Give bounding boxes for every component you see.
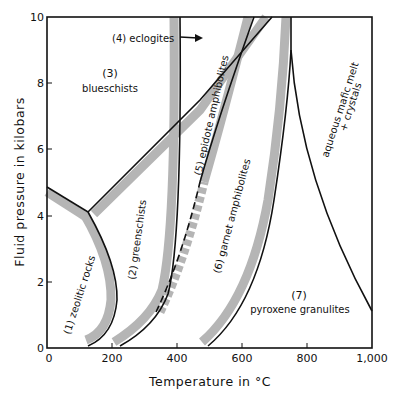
- label-greenschists: (2) greenschists: [126, 199, 148, 280]
- x-axis-label: Temperature in °C: [148, 374, 271, 389]
- label-blueschists-num: (3): [102, 67, 118, 80]
- svg-text:8: 8: [37, 77, 44, 90]
- svg-text:800: 800: [297, 352, 318, 365]
- svg-text:600: 600: [232, 352, 253, 365]
- y-axis-label: Fluid pressure in kilobars: [12, 97, 27, 266]
- x-tick-labels: 0 200 400 600 800 1,000: [46, 352, 388, 365]
- eclogite-arrow-icon: [180, 34, 203, 42]
- facies-boundaries: [47, 17, 372, 346]
- svg-text:6: 6: [37, 143, 44, 156]
- plot-frame: [47, 17, 372, 348]
- svg-text:10: 10: [30, 11, 44, 24]
- svg-text:2: 2: [37, 276, 44, 289]
- svg-text:200: 200: [102, 352, 123, 365]
- svg-text:4: 4: [37, 210, 44, 223]
- label-zeolitic: (1) zeolitic rocks: [61, 254, 97, 336]
- label-garnet-amphibolites: (6) garnet amphibolites: [211, 158, 252, 275]
- y-tick-labels: 0 2 4 6 8 10: [30, 11, 44, 355]
- svg-text:400: 400: [167, 352, 188, 365]
- svg-text:0: 0: [46, 352, 53, 365]
- label-blueschists: blueschists: [82, 83, 138, 94]
- svg-text:0: 0: [37, 342, 44, 355]
- label-granulites-num: (7): [291, 289, 307, 302]
- svg-text:1,000: 1,000: [356, 352, 388, 365]
- label-granulites: pyroxene granulites: [250, 304, 350, 315]
- label-eclogites: (4) eclogites: [112, 33, 174, 44]
- metamorphic-facies-chart: 0 200 400 600 800 1,000 0 2 4 6 8 10 Tem…: [0, 0, 397, 400]
